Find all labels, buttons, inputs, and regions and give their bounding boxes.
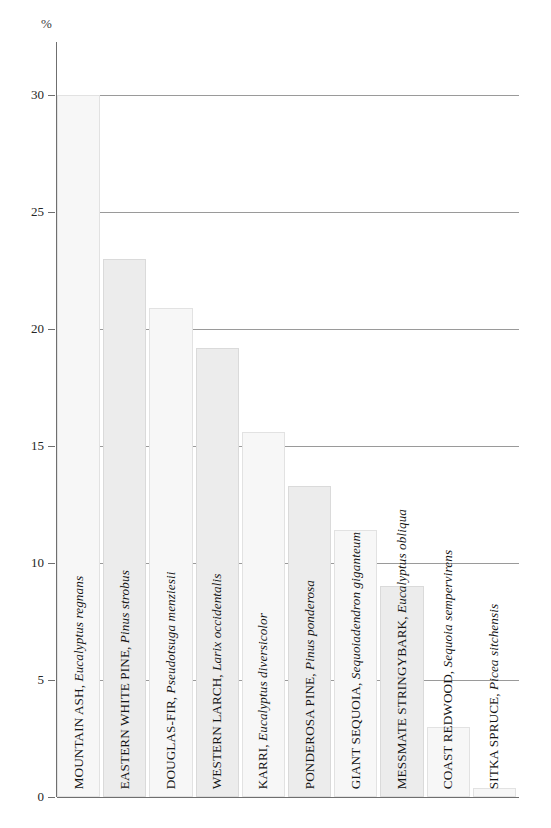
species-latin-name: Eucalyptus regnans: [70, 576, 85, 682]
species-latin-name: Pinus ponderosa: [301, 580, 316, 670]
bar-category-label: MOUNTAIN ASH, Eucalyptus regnans: [71, 576, 84, 789]
species-common-name: MESSMATE STRINGYBARK,: [394, 613, 409, 789]
species-common-name: DOUGLAS-FIR,: [163, 693, 178, 789]
y-axis-unit-label: %: [41, 16, 52, 32]
species-latin-name: Eucalyptus obliqua: [394, 509, 409, 613]
bar-category-label: MESSMATE STRINGYBARK, Eucalyptus obliqua: [395, 509, 408, 789]
gridline-25: [57, 212, 519, 213]
y-tick-label-15: 15: [0, 438, 44, 454]
y-tick-label-25: 25: [0, 204, 44, 220]
species-common-name: WESTERN LARCH,: [209, 671, 224, 789]
y-tick-mark-30: [48, 95, 55, 96]
species-common-name: KARRI,: [255, 741, 270, 789]
species-latin-name: Larix occidentalis: [209, 573, 224, 670]
gridline-0: [57, 797, 519, 798]
species-common-name: SITKA SPRUCE,: [486, 690, 501, 789]
y-tick-mark-25: [48, 212, 55, 213]
bar-category-label: DOUGLAS-FIR, Pseudotsuga menziesii: [164, 571, 177, 789]
species-latin-name: Pinus strobus: [117, 570, 132, 643]
y-tick-mark-10: [48, 563, 55, 564]
species-common-name: GIANT SEQUOIA,: [348, 679, 363, 789]
bar-category-label: GIANT SEQUOIA, Sequoiadendron giganteum: [349, 532, 362, 789]
y-tick-label-5: 5: [0, 672, 44, 688]
y-tick-label-20: 20: [0, 321, 44, 337]
species-common-name: PONDEROSA PINE,: [301, 670, 316, 789]
gridline-30: [57, 95, 519, 96]
y-tick-mark-20: [48, 329, 55, 330]
species-latin-name: Sequoiadendron giganteum: [348, 532, 363, 679]
y-tick-mark-5: [48, 680, 55, 681]
y-tick-label-30: 30: [0, 87, 44, 103]
species-latin-name: Eucalyptus diversicolor: [255, 613, 270, 741]
y-tick-label-10: 10: [0, 555, 44, 571]
bar-category-label: SITKA SPRUCE, Picea sitchensis: [487, 604, 500, 789]
y-tick-label-0: 0: [0, 789, 44, 805]
species-common-name: MOUNTAIN ASH,: [70, 681, 85, 789]
species-latin-name: Sequoia sempervirens: [440, 550, 455, 668]
plot-area: MOUNTAIN ASH, Eucalyptus regnansEASTERN …: [57, 42, 519, 797]
bar-category-label: WESTERN LARCH, Larix occidentalis: [210, 573, 223, 789]
bar-category-label: EASTERN WHITE PINE, Pinus strobus: [118, 570, 131, 789]
bar-chart: % MOUNTAIN ASH, Eucalyptus regnansEASTER…: [0, 0, 551, 828]
species-latin-name: Pseudotsuga menziesii: [163, 571, 178, 693]
bar-category-label: KARRI, Eucalyptus diversicolor: [256, 613, 269, 789]
bar-category-label: COAST REDWOOD, Sequoia sempervirens: [441, 550, 454, 789]
y-tick-mark-0: [48, 797, 55, 798]
y-tick-mark-15: [48, 446, 55, 447]
bar-category-label: PONDEROSA PINE, Pinus ponderosa: [302, 580, 315, 789]
species-common-name: COAST REDWOOD,: [440, 667, 455, 789]
species-common-name: EASTERN WHITE PINE,: [117, 643, 132, 789]
species-latin-name: Picea sitchensis: [486, 604, 501, 690]
